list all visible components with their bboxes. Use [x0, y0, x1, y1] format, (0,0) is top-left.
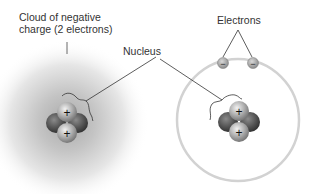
nucleus-right: + + [218, 101, 260, 142]
electrons-label: Electrons [217, 14, 261, 26]
electron-charge: − [220, 59, 225, 69]
electron-charge: − [250, 59, 255, 69]
proton-charge: + [235, 105, 242, 119]
proton-charge: + [63, 106, 70, 120]
electrons-pointer-line [238, 30, 252, 57]
proton-charge: + [235, 126, 242, 140]
electron-1: − [218, 58, 229, 69]
cloud-label: Cloud of negative charge (2 electrons) [19, 11, 112, 35]
cloud-label-line2: charge (2 electrons) [19, 23, 112, 35]
cloud-label-line1: Cloud of negative [19, 11, 112, 23]
nucleus-label: Nucleus [123, 45, 161, 57]
atom-models-diagram: + + + + − − [0, 0, 314, 194]
orbit-model: + + − − [177, 30, 299, 181]
electrons-pointer-line [223, 30, 238, 57]
electron-2: − [248, 58, 259, 69]
proton-charge: + [63, 127, 70, 141]
electron-cloud-model: + + [0, 40, 149, 194]
